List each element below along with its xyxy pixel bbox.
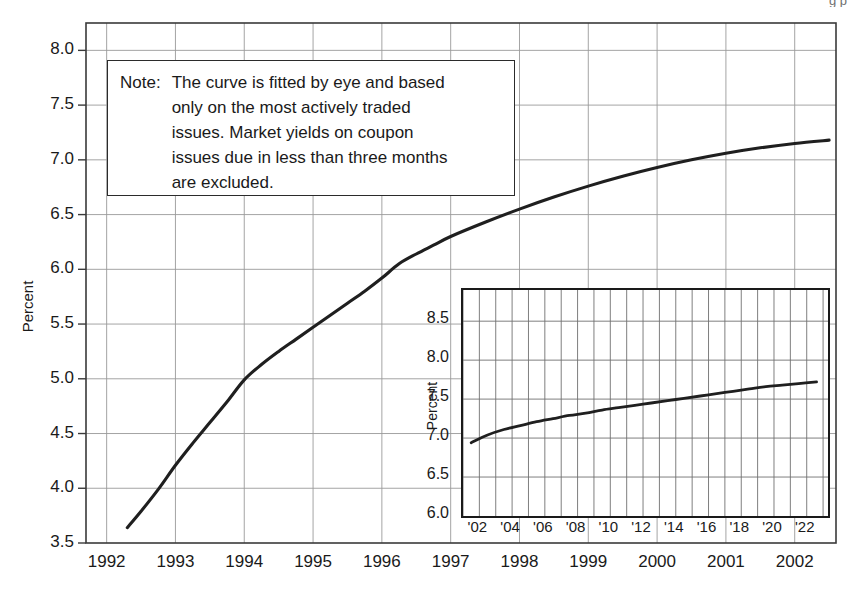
main-y-tick-label: 3.5: [28, 532, 74, 552]
note-label: Note:: [120, 70, 172, 95]
main-y-tick-label: 8.0: [28, 39, 74, 59]
main-x-tick-label: 1996: [347, 552, 417, 572]
main-x-tick-label: 1997: [416, 552, 486, 572]
main-x-tick-label: 2001: [691, 552, 761, 572]
note-annotation-box: Note: The curve is fitted by eye and bas…: [107, 60, 515, 196]
inset-y-tick-label: 8.0: [409, 348, 449, 366]
figure-screenshot: g p Percent 3.54.04.55.05.56.06.57.07.58…: [0, 0, 847, 589]
main-y-tick-label: 7.0: [28, 149, 74, 169]
inset-x-tick-label: '22: [785, 518, 825, 535]
inset-chart-svg: [463, 290, 828, 516]
main-y-tick-label: 5.5: [28, 313, 74, 333]
main-y-tick-label: 6.5: [28, 204, 74, 224]
main-x-tick-label: 1994: [209, 552, 279, 572]
inset-y-tick-label: 7.0: [409, 426, 449, 444]
main-y-tick-label: 7.5: [28, 94, 74, 114]
main-x-tick-label: 2000: [622, 552, 692, 572]
inset-y-tick-label: 6.0: [409, 504, 449, 522]
main-x-tick-label: 1992: [72, 552, 142, 572]
main-x-tick-label: 1998: [484, 552, 554, 572]
inset-y-tick-label: 6.5: [409, 465, 449, 483]
main-y-tick-label: 4.5: [28, 423, 74, 443]
main-x-tick-label: 1999: [553, 552, 623, 572]
main-y-tick-label: 4.0: [28, 477, 74, 497]
inset-y-tick-label: 7.5: [409, 387, 449, 405]
main-x-tick-label: 1995: [278, 552, 348, 572]
inset-data-curve: [471, 382, 816, 443]
inset-chart-panel: [461, 288, 830, 518]
note-text: The curve is fitted by eye and based onl…: [172, 70, 504, 195]
main-y-tick-label: 6.0: [28, 258, 74, 278]
inset-y-tick-label: 8.5: [409, 309, 449, 327]
main-y-tick-label: 5.0: [28, 368, 74, 388]
main-x-tick-label: 2002: [760, 552, 830, 572]
main-x-tick-label: 1993: [140, 552, 210, 572]
